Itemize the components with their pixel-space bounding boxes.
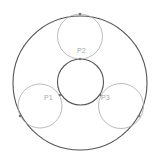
tangent-point xyxy=(79,58,82,61)
tangent-points xyxy=(19,13,141,118)
circle-p3 xyxy=(99,84,144,129)
tangent-point xyxy=(59,94,62,97)
inner-circle xyxy=(58,59,104,105)
tangent-point xyxy=(79,13,82,16)
planetary-circles-diagram: P1 P2 P3 xyxy=(0,0,156,161)
outer-circle xyxy=(13,16,147,150)
label-p2: P2 xyxy=(77,47,86,54)
label-p1: P1 xyxy=(44,94,53,101)
tangent-point xyxy=(138,115,141,118)
tangent-point xyxy=(99,94,102,97)
label-p3: P3 xyxy=(101,94,110,101)
tangent-point xyxy=(19,115,22,118)
circle-p1 xyxy=(18,84,62,128)
